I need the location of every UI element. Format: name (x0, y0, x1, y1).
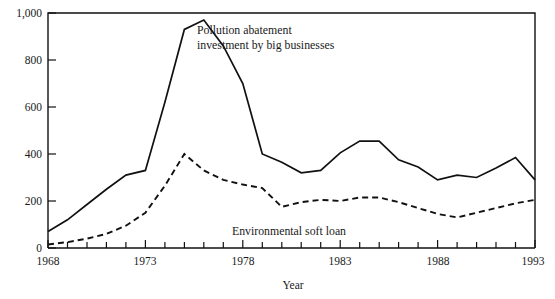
y-tick-label-0: 0 (36, 242, 42, 254)
environmental-soft-loan-annotation: Environmental soft loan (232, 224, 346, 238)
annotation-line-1: Pollution abatement (197, 23, 292, 37)
y-tick-label-600: 600 (25, 101, 43, 113)
annotation-line-2: investment by big businesses (197, 38, 335, 52)
y-tick-label-400: 400 (25, 148, 43, 160)
y-tick-label-1000: 1,000 (16, 7, 42, 20)
y-axis-labels: 1,000 800 600 400 200 0 (16, 7, 42, 254)
line-chart: 1,000 800 600 400 200 0 (0, 0, 555, 299)
x-tick-label-1988: 1988 (427, 255, 450, 267)
y-tick-label-800: 800 (25, 54, 43, 66)
x-axis-title: Year (282, 279, 303, 291)
y-tick-label-200: 200 (25, 195, 43, 207)
x-tick-label-1978: 1978 (232, 255, 255, 267)
y-axis-ticks (48, 13, 56, 248)
x-tick-label-1973: 1973 (134, 255, 157, 267)
x-tick-label-1968: 1968 (37, 255, 60, 267)
x-tick-label-1983: 1983 (329, 255, 352, 267)
x-axis-labels: 1968 1973 1978 1983 1988 1993 (37, 255, 545, 267)
data-series-layer (48, 20, 535, 244)
annotation-line-3: Environmental soft loan (232, 224, 346, 238)
x-tick-label-1993: 1993 (522, 255, 545, 267)
chart-figure: ( billion) 1,000 800 600 400 200 0 (0, 0, 555, 299)
x-axis-ticks (48, 240, 535, 248)
pollution-abatement-annotation: Pollution abatement investment by big bu… (197, 23, 335, 52)
